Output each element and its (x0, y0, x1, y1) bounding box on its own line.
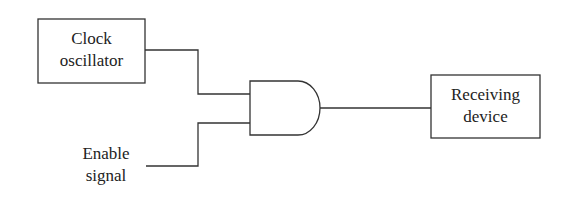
enable-label-line1: Enable (66, 143, 146, 165)
clock-wire (145, 50, 250, 94)
enable-wire (146, 123, 250, 166)
diagram-canvas: Clock oscillator Enable signal Receiving… (0, 0, 574, 203)
receiver-label-line2: device (431, 106, 540, 128)
clock-oscillator-label: Clock oscillator (38, 28, 145, 72)
receiving-device-label: Receiving device (431, 84, 540, 128)
enable-label-line2: signal (66, 165, 146, 187)
clock-label-line1: Clock (38, 28, 145, 50)
clock-label-line2: oscillator (38, 50, 145, 72)
and-gate-icon (250, 81, 320, 135)
receiver-label-line1: Receiving (431, 84, 540, 106)
enable-signal-label: Enable signal (66, 143, 146, 187)
